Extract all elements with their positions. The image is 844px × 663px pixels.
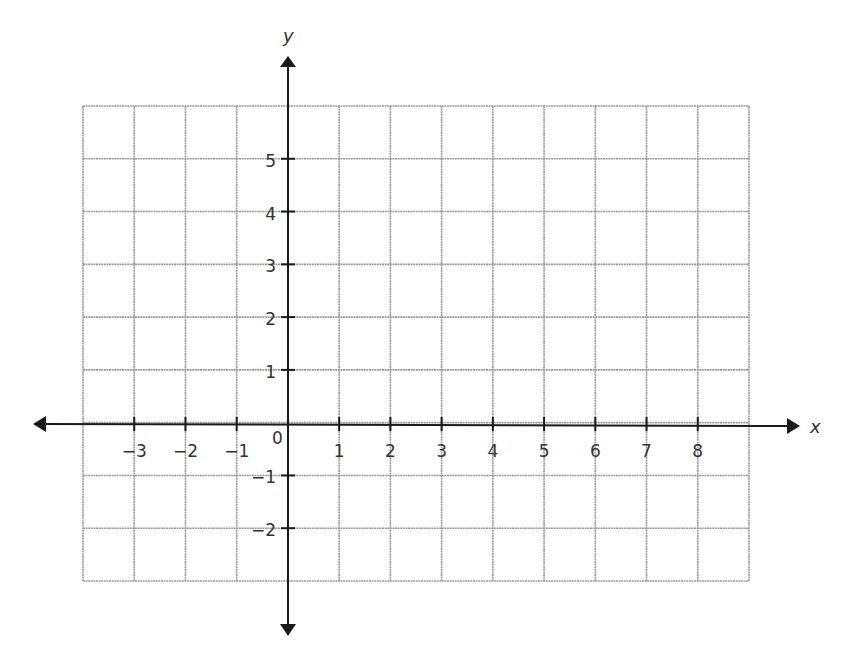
x-tick-label: −1 bbox=[224, 441, 249, 461]
y-tick-label: 5 bbox=[265, 151, 276, 171]
y-tick-label: 1 bbox=[265, 362, 276, 382]
y-tick-label: 3 bbox=[265, 256, 276, 276]
x-axis-right-arrow-icon bbox=[787, 418, 800, 434]
ticks bbox=[134, 159, 698, 528]
x-tick-label: 3 bbox=[436, 441, 447, 461]
x-tick-label: 8 bbox=[692, 441, 703, 461]
x-tick-label: 4 bbox=[487, 441, 498, 461]
x-tick-label: 5 bbox=[539, 441, 550, 461]
x-tick-label: 7 bbox=[641, 441, 652, 461]
y-tick-label: −1 bbox=[251, 467, 276, 487]
x-tick-label: −2 bbox=[173, 441, 198, 461]
grid bbox=[83, 106, 749, 581]
y-axis-label: y bbox=[282, 25, 294, 46]
x-axis-left-arrow-icon bbox=[33, 416, 46, 432]
y-axis-up-arrow-icon bbox=[280, 56, 296, 67]
tick-labels: −3−2−112345678−2−112345 bbox=[122, 151, 703, 540]
origin-label: 0 bbox=[272, 428, 283, 448]
y-tick-label: −2 bbox=[251, 520, 276, 540]
y-tick-label: 4 bbox=[265, 204, 276, 224]
x-tick-label: −3 bbox=[122, 441, 147, 461]
y-tick-label: 2 bbox=[265, 309, 276, 329]
coordinate-plane: −3−2−112345678−2−112345 x y 0 bbox=[0, 0, 844, 663]
x-tick-label: 2 bbox=[385, 441, 396, 461]
x-axis-label: x bbox=[809, 416, 821, 437]
x-axis bbox=[42, 424, 790, 426]
y-axis-down-arrow-icon bbox=[280, 624, 296, 636]
x-tick-label: 6 bbox=[590, 441, 601, 461]
axes bbox=[33, 56, 800, 636]
x-tick-label: 1 bbox=[334, 441, 345, 461]
